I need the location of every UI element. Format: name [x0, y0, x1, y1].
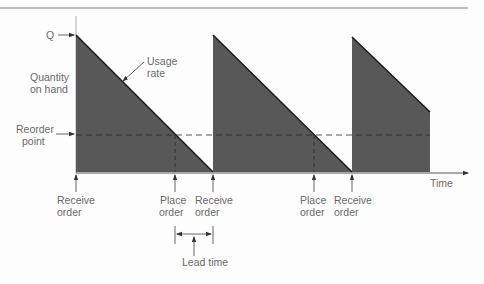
diagram-canvas: Time Q Quantity on hand Usage rate Reord…	[0, 0, 484, 284]
usage-rate-label-2: rate	[147, 67, 165, 79]
time-label: Time	[430, 177, 453, 189]
usage-rate-arrow	[123, 62, 144, 81]
receive-order-label-2b: order	[195, 206, 220, 218]
inventory-cycle-3	[352, 37, 430, 172]
receive-order-label-1b: order	[57, 206, 82, 218]
place-order-label-1a: Place	[160, 194, 186, 206]
receive-order-label-1a: Receive	[57, 194, 95, 206]
place-order-label-2a: Place	[300, 194, 326, 206]
lead-time-label: Lead time	[182, 256, 228, 268]
place-order-label-1b: order	[159, 206, 184, 218]
quantity-label-1: Quantity	[30, 71, 70, 83]
receive-order-label-3a: Receive	[334, 194, 372, 206]
usage-rate-label-1: Usage	[147, 55, 178, 67]
q-label: Q	[46, 29, 54, 41]
quantity-label-2: on hand	[30, 83, 68, 95]
place-order-label-2b: order	[300, 206, 325, 218]
reorder-point-label-2: point	[22, 135, 45, 147]
receive-order-label-2a: Receive	[195, 194, 233, 206]
receive-order-label-3b: order	[334, 206, 359, 218]
reorder-point-label-1: Reorder	[16, 123, 54, 135]
inventory-diagram: Time Q Quantity on hand Usage rate Reord…	[0, 0, 484, 284]
